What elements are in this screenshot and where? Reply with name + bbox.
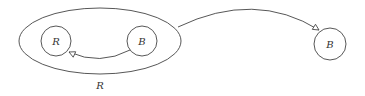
node-inner-r-label: R	[51, 36, 60, 47]
node-outer-b: B	[314, 28, 346, 60]
diagram-canvas: R R B B	[0, 0, 365, 96]
edge-group-to-outer-b	[178, 9, 319, 30]
node-outer-b-label: B	[325, 39, 333, 50]
node-inner-r: R	[41, 26, 71, 56]
group-label: R	[95, 80, 104, 91]
node-inner-b-label: B	[137, 36, 145, 47]
node-inner-b: B	[127, 26, 157, 56]
edge-inner-b-to-inner-r	[69, 50, 130, 59]
